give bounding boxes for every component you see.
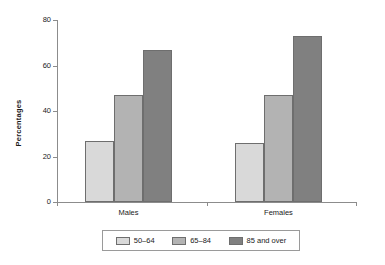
bar-females-50-64 — [235, 143, 264, 202]
legend-label-65-84: 65–84 — [190, 236, 211, 245]
bar-males-50-64 — [85, 141, 114, 202]
y-axis-title: Percentages — [14, 0, 23, 78]
legend-item-85-and-over: 85 and over — [229, 236, 287, 245]
x-tick-end — [356, 202, 357, 206]
y-tick-60 — [53, 66, 57, 67]
y-tick-label-80: 80 — [25, 16, 51, 24]
bar-males-65-84 — [114, 95, 143, 202]
y-tick-label-20: 20 — [25, 153, 51, 161]
x-tick-start — [57, 202, 58, 206]
legend-label-85-and-over: 85 and over — [247, 236, 287, 245]
y-tick-20 — [53, 157, 57, 158]
legend-swatch-85-and-over — [229, 237, 243, 245]
y-tick-label-40: 40 — [25, 107, 51, 115]
y-axis-title-text: Percentages — [14, 78, 23, 168]
y-tick-80 — [53, 20, 57, 21]
legend-item-50-64: 50–64 — [116, 236, 155, 245]
y-tick-label-0: 0 — [25, 198, 51, 206]
bar-females-65-84 — [264, 95, 293, 202]
legend-swatch-65-84 — [172, 237, 186, 245]
legend-swatch-50-64 — [116, 237, 130, 245]
legend-item-65-84: 65–84 — [172, 236, 211, 245]
legend: 50–64 65–84 85 and over — [102, 230, 300, 251]
y-tick-label-60: 60 — [25, 62, 51, 70]
y-axis-line — [57, 20, 58, 202]
x-axis-label-females: Females — [239, 208, 319, 217]
bar-chart: Percentages 0 20 40 60 80 Males Females — [0, 0, 385, 265]
y-tick-40 — [53, 111, 57, 112]
x-tick-middle — [207, 202, 208, 206]
bar-females-85-and-over — [293, 36, 322, 202]
bar-males-85-and-over — [143, 50, 172, 203]
plot-area: 0 20 40 60 80 Males Females — [57, 20, 357, 202]
x-axis-label-males: Males — [89, 208, 169, 217]
legend-label-50-64: 50–64 — [134, 236, 155, 245]
